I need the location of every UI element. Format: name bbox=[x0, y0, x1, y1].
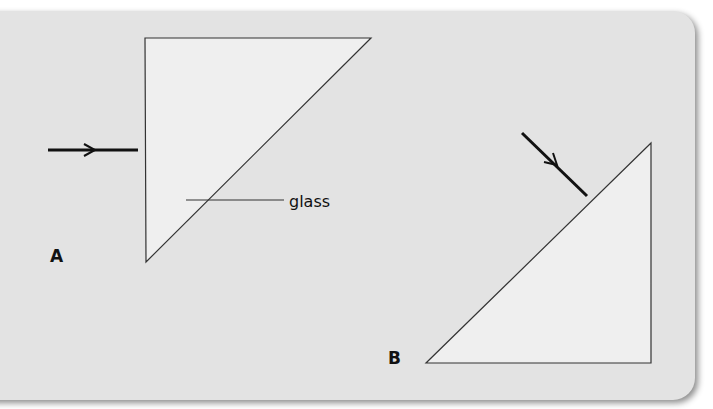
glass-label: glass bbox=[289, 192, 330, 211]
figure-a: glass A bbox=[48, 38, 371, 266]
figure-b: B bbox=[388, 133, 651, 368]
incident-ray-b bbox=[522, 133, 587, 196]
diagram-stage: glass A B bbox=[0, 0, 713, 409]
incident-ray-a bbox=[48, 144, 138, 156]
figure-a-label: A bbox=[50, 246, 64, 266]
prism-diagram: glass A B bbox=[0, 0, 713, 409]
glass-prism-a bbox=[145, 38, 371, 262]
figure-b-label: B bbox=[388, 348, 401, 368]
glass-prism-b bbox=[426, 143, 651, 363]
